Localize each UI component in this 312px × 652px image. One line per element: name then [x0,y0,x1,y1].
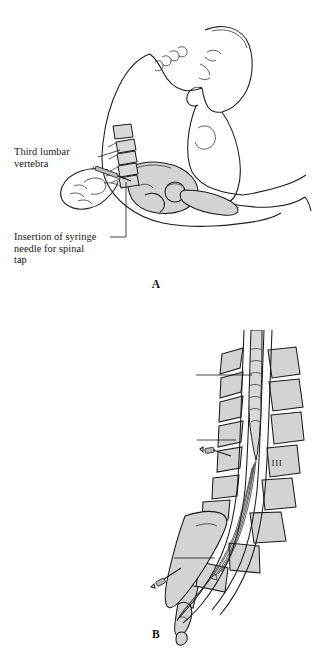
panel-letter-b: B [0,628,312,640]
neck-and-nape [150,47,202,91]
patient-head [187,26,252,112]
pelvis-bone [128,162,238,215]
label-third-lumbar-vertebra-a: Third lumbar vertebra [14,146,110,169]
panel-b-illustration: III [0,330,312,652]
figure-root: Third lumbar vertebra Insertion of syrin… [0,0,312,652]
panel-a: Third lumbar vertebra Insertion of syrin… [0,0,312,310]
panel-letter-a: A [0,278,312,290]
vertebra-number-three: III [272,458,283,468]
panel-b: III [0,330,312,652]
spinous-processes [202,348,243,522]
label-insertion-spinal-tap: Insertion of syringe needle for spinal t… [14,231,126,266]
